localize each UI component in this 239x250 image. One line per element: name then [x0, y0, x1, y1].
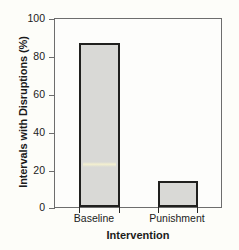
- scan-artifact-band: [83, 162, 116, 167]
- y-axis-title: Intervals with Disruptions (%): [15, 12, 31, 212]
- bar-baseline: [79, 43, 120, 207]
- y-tick-label-80: 80: [33, 50, 45, 62]
- x-tick-label-baseline: Baseline: [54, 212, 134, 224]
- y-tick-0: 0: [49, 208, 55, 209]
- x-tick-label-punishment: Punishment: [132, 212, 222, 224]
- y-tick-label-20: 20: [33, 164, 45, 176]
- y-tick-label-100: 100: [27, 12, 45, 24]
- y-tick-label-60: 60: [33, 88, 45, 100]
- plot-area: 100 80 60 40 20 0: [54, 18, 222, 208]
- bar-punishment: [158, 181, 198, 207]
- x-axis-title: Intervention: [54, 229, 222, 241]
- y-tick-label-40: 40: [33, 126, 45, 138]
- bars-layer: [55, 19, 221, 207]
- y-tick-label-0: 0: [39, 201, 45, 213]
- bar-chart-figure: Intervals with Disruptions (%) 100 80 60…: [0, 0, 239, 250]
